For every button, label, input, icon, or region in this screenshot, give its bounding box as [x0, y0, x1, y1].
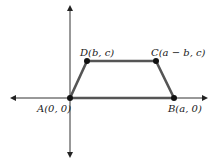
vertex-C-label: C(a − b, c) — [151, 48, 206, 58]
vertex-A-label: A(0, 0) — [37, 104, 71, 114]
x-axis-right-arrow-icon — [202, 95, 208, 101]
trapezoid-vertices — [67, 58, 177, 101]
vertex-B-label: B(a, 0) — [168, 104, 202, 114]
vertex-C-dot — [153, 58, 159, 64]
vertex-D-label: D(b, c) — [80, 48, 114, 58]
x-axis-left-arrow-icon — [10, 95, 16, 101]
coordinate-diagram — [0, 0, 211, 164]
trapezoid-edges — [70, 61, 174, 98]
vertex-D-dot — [84, 58, 90, 64]
y-axis-up-arrow-icon — [67, 5, 73, 11]
vertex-A-dot — [67, 95, 73, 101]
edge-DA — [70, 61, 87, 98]
vertex-B-dot — [171, 95, 177, 101]
edge-BC — [156, 61, 174, 98]
y-axis-down-arrow-icon — [67, 152, 73, 158]
